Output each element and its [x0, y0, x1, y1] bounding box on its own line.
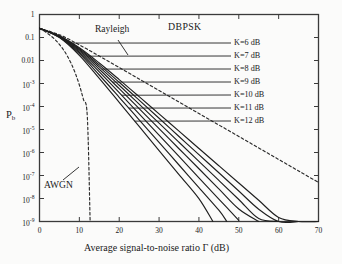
- series-label-k-8-db: K=8 dB: [234, 65, 260, 73]
- curve-k-10-db: [40, 28, 239, 220]
- series-label-k-9-db: K=9 dB: [234, 78, 260, 86]
- series-label-k-6-db: K=6 dB: [234, 39, 260, 47]
- y-tick-label: 10-6: [22, 149, 34, 158]
- y-tick-label: 10-4: [22, 103, 34, 112]
- x-tick-label: 50: [227, 227, 251, 235]
- series-label-k-12-db: K=12 dB: [234, 117, 264, 125]
- y-tick-mantissa: 1: [31, 10, 35, 19]
- y-tick-exponent: -9: [30, 217, 35, 223]
- chart-plot-area: [0, 0, 342, 264]
- y-tick-mantissa: 10: [22, 172, 30, 181]
- y-tick-label: 0.01: [21, 57, 34, 65]
- y-tick-exponent: -5: [30, 125, 35, 131]
- curve-k-12-db: [40, 28, 213, 221]
- y-axis-label: Pb: [6, 110, 15, 121]
- y-tick-mantissa: 0.01: [21, 56, 34, 65]
- y-tick-mantissa: 10: [22, 195, 30, 204]
- y-tick-label: 10-5: [22, 126, 34, 135]
- y-tick-mantissa: 10: [22, 149, 30, 158]
- y-tick-exponent: -7: [30, 171, 35, 177]
- series-label-k-11-db: K=11 dB: [234, 104, 264, 112]
- rayleigh-label: Rayleigh: [95, 25, 129, 35]
- leader-line-awgn: [63, 167, 79, 180]
- x-tick-label: 70: [307, 227, 331, 235]
- y-tick-label: 10-7: [22, 172, 34, 181]
- y-axis-label-base: P: [6, 109, 12, 120]
- data-curves: [40, 28, 319, 222]
- y-tick-label: 10-8: [22, 195, 34, 204]
- y-axis-label-subscript: b: [12, 114, 16, 122]
- y-tick-mantissa: 10: [22, 126, 30, 135]
- series-label-k-10-db: K=10 dB: [234, 91, 264, 99]
- y-tick-label: 1: [31, 11, 35, 19]
- y-tick-exponent: -8: [30, 194, 35, 200]
- y-tick-label: 10-3: [22, 80, 34, 89]
- figure-container: 10.10.0110-310-410-510-610-710-810-9 010…: [0, 0, 342, 264]
- y-tick-label: 10-9: [22, 218, 34, 227]
- y-tick-exponent: -4: [30, 102, 35, 108]
- x-tick-label: 30: [147, 227, 171, 235]
- x-tick-label: 0: [28, 227, 52, 235]
- y-tick-mantissa: 10: [22, 103, 30, 112]
- x-tick-label: 40: [187, 227, 211, 235]
- y-tick-mantissa: 0.1: [25, 33, 34, 42]
- y-tick-mantissa: 10: [22, 80, 30, 89]
- leader-line-rayleigh: [118, 40, 128, 55]
- awgn-label: AWGN: [44, 181, 73, 191]
- y-tick-exponent: -3: [30, 79, 35, 85]
- y-tick-label: 0.1: [25, 34, 34, 42]
- x-tick-label: 20: [107, 227, 131, 235]
- y-tick-exponent: -6: [30, 148, 35, 154]
- x-tick-label: 10: [67, 227, 91, 235]
- chart-title: DBPSK: [168, 22, 202, 32]
- series-label-k-7-db: K=7 dB: [234, 52, 260, 60]
- x-tick-label: 60: [267, 227, 291, 235]
- x-axis-label: Average signal-to-noise ratio Γ (dB): [84, 243, 229, 253]
